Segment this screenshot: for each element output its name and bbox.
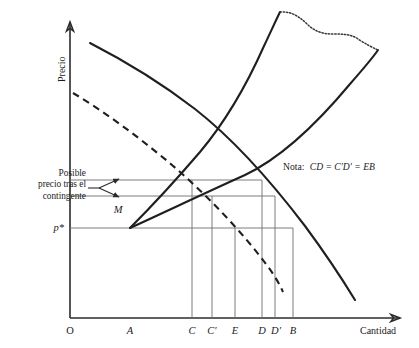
x-axis-label: Cantidad: [360, 325, 396, 336]
x-tick-label-O: O: [66, 325, 74, 336]
supply-curve-flat: [130, 50, 378, 228]
demand-curve-dashed: [73, 93, 283, 292]
x-tick-label-D-prime: D′: [270, 325, 282, 336]
y-axis-label: Precio: [56, 56, 67, 82]
x-axis-tick-labels: O A C C′ E D D′ B Cantidad: [66, 325, 396, 336]
annotation-posible-precio: Posible precio tras el contingente: [20, 168, 86, 202]
x-tick-label-A: A: [126, 325, 134, 336]
note-text: Nota: CD = C′D′ = EB: [283, 161, 375, 172]
note-prefix: Nota:: [283, 161, 304, 172]
price-label-p-star: p*: [53, 222, 65, 233]
annotation-leader: [88, 179, 119, 197]
quantity-guide-lines: [192, 180, 293, 318]
x-tick-label-B: B: [290, 325, 297, 336]
economics-diagram: M p* Nota: CD = C′D′ = EB O A C C′ E D D…: [0, 0, 419, 348]
x-tick-label-D: D: [257, 325, 266, 336]
curves: [73, 12, 378, 300]
dotted-connector-curve: [280, 12, 378, 50]
x-tick-label-C: C: [188, 325, 196, 336]
y-axis-label-wrap: Precio: [44, 26, 58, 86]
note-expression: CD = C′D′ = EB: [310, 161, 375, 172]
x-tick-label-E: E: [231, 325, 239, 336]
x-tick-label-C-prime: C′: [207, 325, 217, 336]
point-label-M: M: [113, 204, 124, 215]
